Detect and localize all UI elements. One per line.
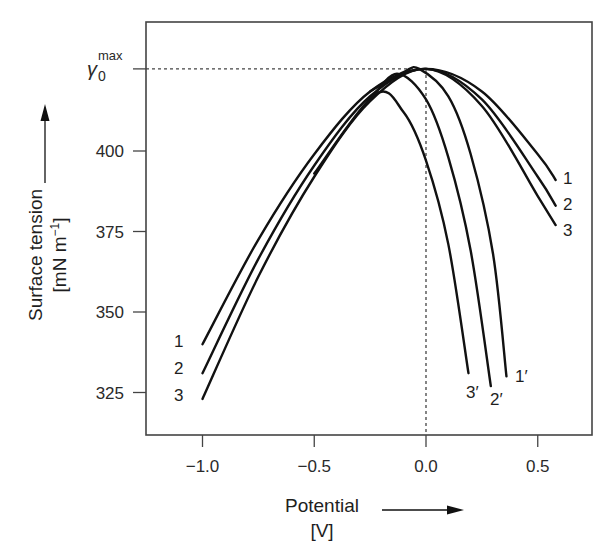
curve-labels: 1231231′2′3′ [174,169,572,409]
curve-label-2-right: 2 [563,195,572,214]
curve-label-1prime: 1′ [515,367,528,386]
curve-label-2prime: 2′ [490,390,503,409]
gamma-subscript: 0 [98,68,106,84]
curve-label-3-right: 3 [563,221,572,240]
curve-label-1-right: 1 [563,169,572,188]
gamma-max-label: γ 0 max [87,48,123,84]
gamma-symbol: γ [87,58,98,80]
y-unit-main: [mN m [49,237,70,293]
y-axis-unit: [mN m−1] [48,218,70,293]
y-tick-label: 325 [96,384,124,403]
gamma-superscript: max [98,48,123,63]
curve-label-3prime: 3′ [466,383,479,402]
y-tick-label: 375 [96,223,124,242]
y-axis-title: Surface tension [25,189,46,321]
curve-label-3-left: 3 [174,386,183,405]
y-unit-sup: −1 [48,223,62,237]
y-axis-arrow-icon [41,104,50,183]
curve-label-1-left: 1 [174,332,183,351]
x-axis-arrow-icon [382,506,464,515]
curve-label-2-left: 2 [174,359,183,378]
x-tick-label: 0.0 [414,457,438,476]
x-axis-ticks: −1.0−0.50.00.5 [186,435,550,476]
curve-5 [370,74,491,386]
x-tick-label: −1.0 [186,457,220,476]
y-axis-title-text: Surface tension [25,189,46,321]
reference-lines [146,69,426,435]
y-tick-label: 350 [96,303,124,322]
y-unit-close: ] [49,218,70,223]
y-tick-label: 400 [96,142,124,161]
curves [203,67,556,399]
x-tick-label: −0.5 [297,457,331,476]
x-axis-title: Potential [285,495,359,516]
y-axis-ticks: 325350375400 [96,69,146,403]
x-tick-label: 0.5 [526,457,550,476]
curve-1 [203,69,556,344]
x-axis-unit: [V] [310,520,333,541]
electrocapillary-chart: −1.0−0.50.00.5 325350375400 γ 0 max Surf… [0,0,616,560]
svg-text:[mN m−1]: [mN m−1] [48,218,70,293]
curve-4 [370,67,506,376]
